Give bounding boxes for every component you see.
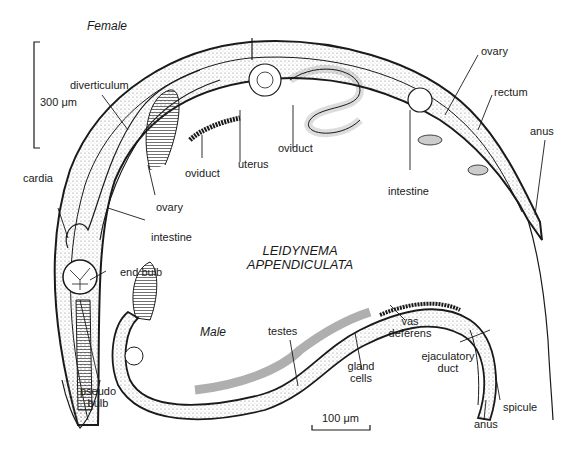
label-ovary-right: ovary — [481, 45, 508, 57]
label-testes: testes — [268, 325, 297, 337]
label-oviduct-mid: oviduct — [278, 142, 313, 154]
label-ejaculatory-duct: ejaculatory duct — [418, 350, 478, 374]
label-intestine-right: intestine — [388, 185, 429, 197]
male-body — [113, 262, 496, 420]
label-diverticulum: diverticulum — [70, 79, 129, 91]
label-cardia: cardia — [23, 172, 53, 184]
label-spicule: spicule — [503, 401, 537, 413]
label-gland-cells: gland cells — [343, 360, 379, 384]
label-uterus: uterus — [238, 158, 269, 170]
male-scale-label: 100 μm — [322, 412, 359, 424]
label-rectum: rectum — [494, 86, 528, 98]
label-oviduct-left: oviduct — [185, 167, 220, 179]
female-scale-label: 300 μm — [40, 96, 77, 108]
species-name: LEIDYNEMA APPENDICULATA — [245, 244, 355, 272]
label-ovary-left: ovary — [156, 201, 183, 213]
label-intestine-left: intestine — [151, 231, 192, 243]
male-label: Male — [200, 326, 226, 338]
male-scale-bar — [312, 425, 370, 430]
label-vas-deferens: vas deferens — [385, 315, 435, 339]
female-label: Female — [87, 20, 127, 32]
label-anus-male: anus — [474, 418, 498, 430]
label-end-bulb: end bulb — [120, 266, 162, 278]
label-anus-female: anus — [530, 125, 554, 137]
label-pseudo-bulb: pseudo bulb — [80, 385, 116, 409]
female-scale-bar — [34, 42, 40, 148]
